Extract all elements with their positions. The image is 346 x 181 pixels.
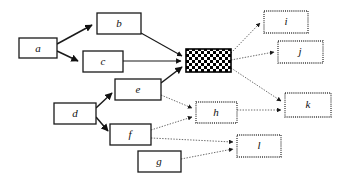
node-i[interactable]: i: [264, 11, 308, 33]
node-c-label: c: [101, 55, 106, 67]
node-a[interactable]: a: [19, 38, 57, 58]
edge-f-to-l: [151, 138, 233, 142]
edge-b-to-center: [141, 33, 182, 56]
node-c[interactable]: c: [83, 51, 123, 72]
node-k[interactable]: k: [285, 93, 331, 117]
node-i-label: i: [284, 15, 287, 27]
node-d-label: d: [72, 107, 78, 119]
diagram-canvas: a b c d e f g: [0, 0, 346, 181]
edge-a-to-c: [57, 51, 78, 61]
node-g-label: g: [156, 155, 162, 167]
node-d[interactable]: d: [54, 103, 96, 124]
edge-e-to-h: [161, 95, 192, 108]
edge-a-to-b: [57, 25, 92, 44]
node-l-label: l: [257, 139, 260, 151]
edge-d-to-f: [96, 117, 108, 131]
node-checkered-center[interactable]: [186, 49, 231, 72]
node-f[interactable]: f: [110, 124, 151, 145]
node-h-label: h: [213, 106, 219, 118]
node-g[interactable]: g: [138, 151, 181, 172]
node-b-label: b: [116, 17, 122, 29]
graph-svg: a b c d e f g: [0, 0, 346, 181]
node-j[interactable]: j: [278, 41, 323, 63]
edge-center-to-j: [231, 52, 274, 60]
edge-g-to-l: [181, 149, 233, 159]
node-h[interactable]: h: [196, 102, 237, 123]
node-a-label: a: [35, 42, 41, 54]
edge-f-to-h: [151, 117, 192, 130]
node-e[interactable]: e: [115, 79, 161, 100]
nodes-layer: a b c d e f g: [19, 11, 331, 172]
edge-e-to-center: [161, 67, 182, 83]
node-e-label: e: [136, 83, 141, 95]
edge-center-to-i: [231, 23, 260, 53]
node-l[interactable]: l: [237, 135, 281, 157]
edge-center-to-k: [231, 68, 281, 101]
edge-d-to-e: [96, 93, 112, 108]
node-b[interactable]: b: [97, 13, 141, 34]
